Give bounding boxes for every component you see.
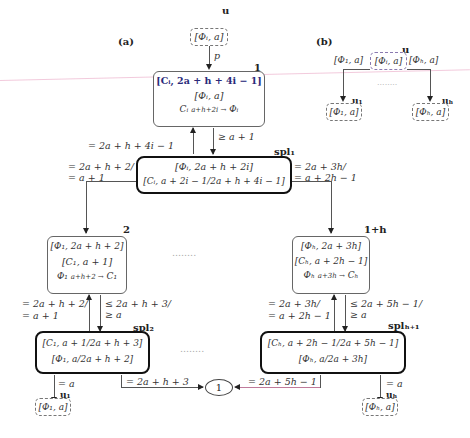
- arrow-head: [198, 384, 204, 390]
- node1-line1: [Cᵢ, 2a + h + 4i − 1]: [154, 75, 264, 86]
- edge-splh1-circle-h: [235, 387, 321, 388]
- panel-a-label: (a): [118, 36, 134, 47]
- node2-line2: [C₁, a + 1]: [48, 256, 126, 267]
- panel-b-label: (b): [316, 36, 332, 47]
- edge-spl2-circle-label: = 2a + h + 3: [126, 376, 189, 387]
- spl1-line2: [Cᵢ, a + 2i − 1/2a + h + 4i − 1]: [138, 176, 290, 186]
- edge-spl1-node2-h: [86, 181, 136, 182]
- node2-index: 2: [123, 224, 130, 235]
- node2-line3-right: C₁: [107, 271, 118, 281]
- arrow-head: [234, 384, 240, 390]
- arrow-head: [328, 228, 334, 234]
- panel-b-edge-left-h: [343, 69, 370, 70]
- node1-line3-left: Cᵢ: [180, 104, 189, 114]
- edge-spl1-node2-label: = 2a + h + 2/ = a + 1: [68, 161, 134, 183]
- spl1-line1: [Φᵢ, 2a + h + 2i]: [138, 161, 290, 172]
- panel-b-edge-left-v: [343, 69, 344, 99]
- arrow-head: [190, 127, 196, 133]
- arrow-head: [427, 96, 433, 102]
- node1-line2: [Φᵢ, a]: [154, 90, 264, 101]
- node1h-line2: [Cₕ, a + 2h − 1]: [293, 256, 369, 266]
- spl2-line2: [Φ₁, a/2a + h + 2]: [37, 354, 148, 364]
- spl2-line1: [C₁, a + 1/2a + h + 3]: [37, 338, 148, 348]
- edge-spl1-node1h-v: [331, 181, 332, 233]
- panel-b-right-text: [Φₕ, a]: [409, 55, 438, 65]
- node1h-line1: [Φₕ, 2a + 3h]: [293, 241, 369, 251]
- node-1[interactable]: [Cᵢ, 2a + h + 4i − 1] [Φᵢ, a] Cᵢ a+h+2i …: [153, 71, 265, 127]
- node2-line3-left: Φ₁: [57, 271, 68, 281]
- u1-node[interactable]: [Φ₁, a]: [35, 398, 71, 416]
- edge-node1-spl1-label: ≥ a + 1: [218, 131, 255, 142]
- splh1-line1: [Cₕ, a + 2h − 1/2a + 5h − 1]: [262, 338, 404, 348]
- merge-circle-node[interactable]: 1: [205, 379, 233, 396]
- splh1-label: splₕ₊₁: [388, 320, 419, 331]
- edge-spl2-circle-h: [121, 387, 203, 388]
- node-2[interactable]: [Φ₁, 2a + h + 2] [C₁, a + 1] Φ₁ a+h+2 → …: [47, 236, 127, 294]
- node1h-index: 1+h: [364, 224, 387, 235]
- edge-splh1-node1h-up: [334, 295, 335, 331]
- node1h-line3-left: Φₕ: [304, 270, 315, 280]
- edge-splh1-uh-label: = a: [386, 378, 403, 389]
- edge-p-label: p: [214, 50, 220, 61]
- edge-spl1-node1-label: = 2a + h + 4i − 1: [88, 140, 174, 151]
- node1-transition-arrow: a+h+2i →: [191, 106, 226, 114]
- edge-spl1-node1h-label: = 2a + 3h/ = a + 2h − 1: [294, 161, 357, 183]
- edge-spl1-node2-v: [86, 181, 87, 233]
- ellipsis-lower: ........: [180, 343, 204, 354]
- node-1-plus-h[interactable]: [Φₕ, 2a + 3h] [Cₕ, a + 2h − 1] Φₕ a+3h →…: [292, 236, 370, 294]
- edge-node2-down-label: ≤ 2a + h + 3/ ≥ a: [105, 298, 171, 320]
- panel-b-edge-right-v: [430, 69, 431, 99]
- spl2-node[interactable]: [C₁, a + 1/2a + h + 3] [Φ₁, a/2a + h + 2…: [35, 331, 150, 374]
- ellipsis-upper: ........: [172, 247, 196, 258]
- node1h-transition-arrow: a+3h →: [318, 272, 345, 280]
- arrow-head: [331, 294, 337, 300]
- panel-b-ellipsis: ........: [377, 78, 397, 87]
- panel-b-left-text: [Φ₁, a]: [334, 55, 363, 65]
- arrow-head: [210, 149, 216, 155]
- root-u-label: u: [222, 5, 229, 16]
- panel-b-u1-node[interactable]: [Φ₁, a]: [326, 103, 362, 121]
- splh1-line2: [Φₕ, a/2a + 3h]: [262, 354, 404, 364]
- node1-line3-right: Φᵢ: [229, 104, 238, 114]
- edge-spl2-node2-up: [89, 295, 90, 331]
- edge-splh1-circle-v: [320, 375, 321, 388]
- node2-transition-arrow: a+h+2 →: [71, 273, 104, 281]
- arrow-head: [340, 96, 346, 102]
- edge-u-node1: [209, 46, 210, 66]
- node2-line1: [Φ₁, 2a + h + 2]: [48, 241, 126, 251]
- panel-b-edge-right-h: [407, 69, 431, 70]
- panel-b-uh-node[interactable]: [Φₕ, a]: [412, 103, 449, 121]
- uh-node[interactable]: [Φₕ, a]: [362, 398, 398, 416]
- arrow-head: [206, 64, 212, 70]
- panel-b-root-node[interactable]: [Φᵢ, a]: [370, 52, 407, 70]
- arrow-head: [83, 228, 89, 234]
- edge-node1h-down-label: ≤ 2a + 5h − 1/ ≥ a: [350, 298, 422, 320]
- edge-splh1-circle-label: = 2a + 5h − 1: [248, 376, 317, 387]
- edge-node1h-up-label: = 2a + 3h/ = a + 2h − 1: [268, 298, 331, 322]
- edge-spl1-node1h-h: [292, 181, 332, 182]
- root-u-node[interactable]: [Φᵢ, a]: [190, 28, 228, 46]
- splh1-node[interactable]: [Cₕ, a + 2h − 1/2a + 5h − 1] [Φₕ, a/2a +…: [260, 331, 406, 374]
- edge-node2-up-label: = 2a + h + 2/ = a + 1: [22, 298, 88, 322]
- node1h-line3-right: Cₕ: [348, 270, 359, 280]
- spl1-node[interactable]: [Φᵢ, 2a + h + 2i] [Cᵢ, a + 2i − 1/2a + h…: [136, 156, 292, 194]
- edge-spl2-u1-label: = a: [58, 378, 75, 389]
